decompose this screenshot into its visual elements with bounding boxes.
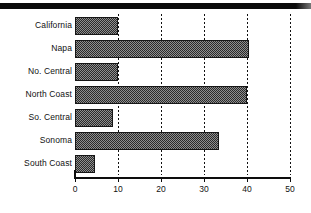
bar-so-central[interactable] [75, 109, 113, 127]
bar-chart-plot-area: CaliforniaNapaNo. CentralNorth CoastSo. … [0, 0, 311, 213]
y-axis-label-so-central: So. Central [28, 113, 72, 122]
y-axis-label-south-coast: South Coast [24, 159, 72, 168]
x-axis-tick-label-10: 10 [103, 184, 133, 194]
y-axis-label-no-central: No. Central [28, 67, 72, 76]
bar-california[interactable] [75, 17, 118, 35]
chart-figure: CaliforniaNapaNo. CentralNorth CoastSo. … [0, 0, 311, 213]
gridline-x-50 [290, 14, 291, 175]
x-axis-tick-label-40: 40 [232, 184, 262, 194]
bar-south-coast[interactable] [75, 155, 95, 173]
y-axis-label-napa: Napa [51, 44, 72, 53]
x-axis-tick-label-0: 0 [60, 184, 90, 194]
bar-no-central[interactable] [75, 63, 118, 81]
bar-sonoma[interactable] [75, 132, 219, 150]
y-axis-label-california: California [35, 21, 72, 30]
x-axis-line [75, 177, 291, 179]
gridline-x-40 [247, 14, 248, 175]
bar-north-coast[interactable] [75, 86, 247, 104]
figure-caption-strip [0, 205, 311, 213]
x-axis-tick-label-20: 20 [146, 184, 176, 194]
bar-napa[interactable] [75, 40, 249, 58]
x-axis-tick-label-30: 30 [189, 184, 219, 194]
y-axis-label-north-coast: North Coast [26, 90, 72, 99]
x-axis-tick-label-50: 50 [275, 184, 305, 194]
y-axis-label-sonoma: Sonoma [40, 136, 72, 145]
